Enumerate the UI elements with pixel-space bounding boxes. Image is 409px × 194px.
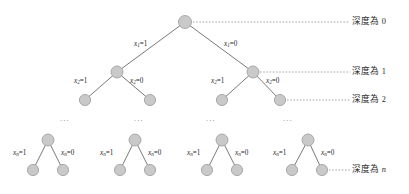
tree-edge (121, 26, 180, 69)
tree-node (179, 16, 192, 29)
tree-node (42, 134, 54, 146)
tree-node (247, 66, 259, 78)
tree-edge (50, 145, 60, 166)
tree-node (274, 94, 285, 105)
tree-node (201, 164, 212, 175)
tree-edge (224, 145, 234, 166)
tree-node (27, 164, 38, 175)
tree-edge (35, 145, 45, 166)
tree-node (316, 164, 327, 175)
tree-node (216, 134, 228, 146)
tree-node (231, 164, 242, 175)
tree-edge (310, 145, 320, 165)
tree-edge (122, 145, 132, 166)
tree-edge (121, 76, 146, 97)
tree-node (144, 94, 155, 105)
tree-node (302, 134, 314, 146)
tree-edge (137, 145, 147, 166)
tree-edge (294, 145, 305, 166)
tree-nodes (27, 16, 327, 176)
tree-edge (257, 76, 277, 96)
tree-edge (209, 145, 219, 166)
tree-node (57, 164, 68, 175)
tree-node (111, 66, 123, 78)
tree-diagram-figure: x1=1x1=0x2=1x2=0x2=1x2=0xn=1xn=0xn=1xn=0… (0, 0, 409, 194)
tree-node (216, 94, 227, 105)
tree-node (129, 134, 141, 146)
tree-graphics (0, 0, 409, 194)
tree-edge (226, 76, 249, 97)
tree-edge (89, 76, 113, 97)
tree-node (286, 164, 297, 175)
tree-edge (190, 26, 249, 69)
tree-node (114, 164, 125, 175)
depth-leader-lines (193, 22, 350, 170)
tree-node (144, 164, 155, 175)
tree-node (79, 94, 90, 105)
